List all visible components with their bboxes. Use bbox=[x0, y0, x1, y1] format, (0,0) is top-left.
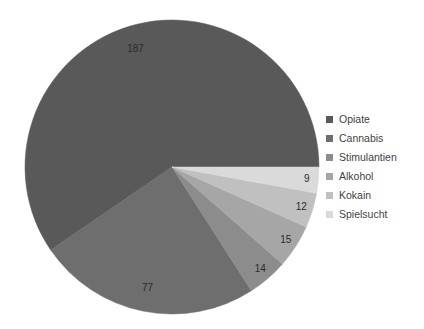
legend-item-label: Kokain bbox=[339, 190, 371, 201]
legend-swatch-icon bbox=[326, 135, 333, 142]
pie-chart-figure: 187771415129 OpiateCannabisStimulantienA… bbox=[0, 0, 424, 329]
legend-swatch-icon bbox=[326, 116, 333, 123]
pie-plot-area: 187771415129 bbox=[0, 0, 330, 329]
legend-item[interactable]: Kokain bbox=[326, 186, 422, 205]
legend-item[interactable]: Alkohol bbox=[326, 167, 422, 186]
pie-data-label: 77 bbox=[142, 282, 154, 293]
pie-data-label: 12 bbox=[296, 201, 308, 212]
pie-svg: 187771415129 bbox=[0, 0, 330, 329]
pie-data-label: 9 bbox=[304, 173, 310, 184]
pie-data-label: 15 bbox=[280, 234, 292, 245]
legend-item-label: Alkohol bbox=[339, 171, 373, 182]
legend-item-label: Opiate bbox=[339, 114, 370, 125]
legend-swatch-icon bbox=[326, 211, 333, 218]
legend-swatch-icon bbox=[326, 154, 333, 161]
legend-swatch-icon bbox=[326, 173, 333, 180]
legend-item[interactable]: Cannabis bbox=[326, 129, 422, 148]
pie-data-label: 187 bbox=[127, 43, 144, 54]
legend-item-label: Stimulantien bbox=[339, 152, 397, 163]
pie-slice-group bbox=[25, 20, 319, 314]
legend-swatch-icon bbox=[326, 192, 333, 199]
legend-item[interactable]: Opiate bbox=[326, 110, 422, 129]
legend-item[interactable]: Spielsucht bbox=[326, 205, 422, 224]
legend-item-label: Cannabis bbox=[339, 133, 383, 144]
legend-item[interactable]: Stimulantien bbox=[326, 148, 422, 167]
chart-legend: OpiateCannabisStimulantienAlkoholKokainS… bbox=[326, 110, 422, 224]
legend-item-label: Spielsucht bbox=[339, 209, 387, 220]
pie-data-label: 14 bbox=[255, 263, 267, 274]
